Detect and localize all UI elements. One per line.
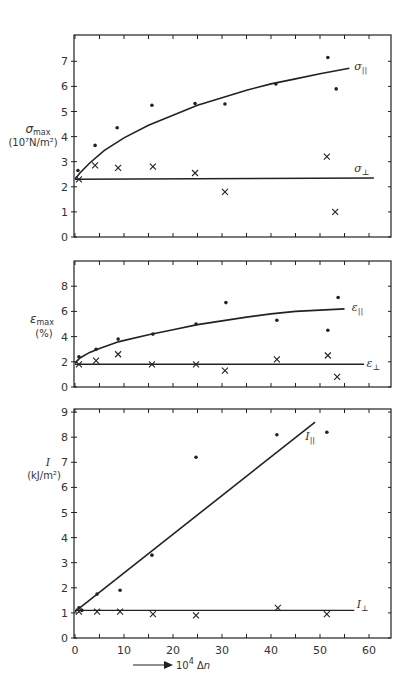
data-point-cross	[115, 165, 121, 171]
series-label: σ||	[354, 60, 367, 75]
data-point-cross	[334, 374, 340, 380]
data-point-cross	[222, 368, 228, 374]
y-tick-label: 2	[61, 582, 68, 595]
y-tick-label: 0	[61, 231, 68, 244]
y-tick-label: 7	[61, 456, 68, 469]
x-tick-label: 20	[166, 644, 180, 657]
data-point-dot	[93, 144, 97, 148]
x-axis-title: 104 Δn	[176, 657, 210, 671]
y-tick-label: 3	[61, 156, 68, 169]
data-point-dot	[94, 347, 98, 351]
data-point-cross	[332, 209, 338, 215]
y-tick-label: 1	[61, 607, 68, 620]
x-tick-label: 50	[313, 644, 327, 657]
series-label: ε||	[352, 301, 363, 316]
y-axis-units: (%)	[35, 328, 52, 339]
y-tick-label: 7	[61, 55, 68, 68]
data-point-cross	[94, 609, 100, 615]
series-label: ε⊥	[367, 357, 380, 372]
y-tick-label: 6	[61, 305, 68, 318]
data-point-dot	[150, 103, 154, 107]
data-point-dot	[77, 355, 81, 359]
y-tick-label: 3	[61, 557, 68, 570]
y-tick-label: 9	[61, 406, 68, 419]
data-point-dot	[193, 102, 197, 106]
x-tick-label: 30	[215, 644, 229, 657]
data-point-dot	[150, 553, 154, 557]
data-point-cross	[117, 609, 123, 615]
fit-line	[75, 422, 315, 611]
y-tick-label: 1	[61, 206, 68, 219]
y-tick-label: 5	[61, 507, 68, 520]
y-axis-label: σmax	[25, 122, 50, 137]
series-label: σ⊥	[354, 162, 369, 177]
y-tick-label: 0	[61, 632, 68, 645]
data-point-dot	[116, 337, 120, 341]
data-point-cross	[150, 611, 156, 617]
data-point-cross	[92, 162, 98, 168]
y-tick-label: 4	[61, 532, 68, 545]
x-tick-label: 0	[72, 644, 79, 657]
panel-sigma: 01234567σmax(10⁷N/m²)σ||σ⊥	[8, 35, 391, 244]
data-point-cross	[274, 356, 280, 362]
data-point-dot	[194, 455, 198, 459]
x-tick-label: 40	[264, 644, 278, 657]
chart-svg: 01234567σmax(10⁷N/m²)σ||σ⊥02468εmax(%)ε|…	[0, 0, 412, 693]
data-point-dot	[336, 296, 340, 300]
y-tick-label: 5	[61, 106, 68, 119]
arrow-head-icon	[164, 661, 173, 669]
series-label: I⊥	[356, 598, 369, 613]
data-point-dot	[334, 87, 338, 91]
data-point-cross	[325, 353, 331, 359]
data-point-cross	[192, 170, 198, 176]
figure: 01234567σmax(10⁷N/m²)σ||σ⊥02468εmax(%)ε|…	[0, 0, 412, 693]
data-point-dot	[224, 301, 228, 305]
fit-line	[75, 68, 349, 179]
data-point-cross	[324, 154, 330, 160]
y-tick-label: 6	[61, 80, 68, 93]
data-point-dot	[326, 329, 330, 333]
data-point-dot	[115, 126, 119, 130]
data-point-cross	[222, 189, 228, 195]
plot-frame	[74, 35, 391, 237]
data-point-dot	[194, 322, 198, 326]
y-tick-label: 2	[61, 356, 68, 369]
y-axis-units: (10⁷N/m²)	[8, 137, 57, 148]
x-tick-label: 10	[117, 644, 131, 657]
data-point-dot	[95, 592, 99, 596]
x-tick-label: 60	[362, 644, 376, 657]
fit-line	[75, 309, 345, 363]
y-axis-label: εmax	[30, 312, 54, 327]
y-tick-label: 0	[61, 381, 68, 394]
data-point-dot	[223, 102, 227, 106]
y-tick-label: 4	[61, 331, 68, 344]
data-point-dot	[76, 169, 80, 173]
data-point-dot	[275, 433, 279, 437]
plot-frame	[74, 409, 391, 638]
data-point-dot	[325, 430, 329, 434]
data-point-cross	[193, 612, 199, 618]
y-tick-label: 6	[61, 481, 68, 494]
data-point-dot	[275, 318, 279, 322]
data-point-cross	[324, 611, 330, 617]
data-point-dot	[77, 606, 81, 610]
data-point-dot	[274, 82, 278, 86]
plot-frame	[74, 261, 391, 387]
data-point-dot	[118, 589, 122, 593]
y-tick-label: 4	[61, 131, 68, 144]
panel-impact: 0123456789I(kJ/m²)I||I⊥0102030405060104 …	[27, 406, 391, 671]
fit-line	[75, 178, 374, 179]
y-tick-label: 8	[61, 280, 68, 293]
y-axis-units: (kJ/m²)	[27, 470, 61, 481]
y-axis-label: I	[45, 456, 51, 469]
data-point-cross	[93, 358, 99, 364]
data-point-dot	[151, 332, 155, 336]
panel-epsilon: 02468εmax(%)ε||ε⊥	[30, 261, 391, 394]
data-point-dot	[326, 56, 330, 60]
series-label: I||	[304, 430, 315, 445]
y-tick-label: 2	[61, 181, 68, 194]
data-point-cross	[115, 351, 121, 357]
y-tick-label: 8	[61, 431, 68, 444]
data-point-cross	[150, 164, 156, 170]
